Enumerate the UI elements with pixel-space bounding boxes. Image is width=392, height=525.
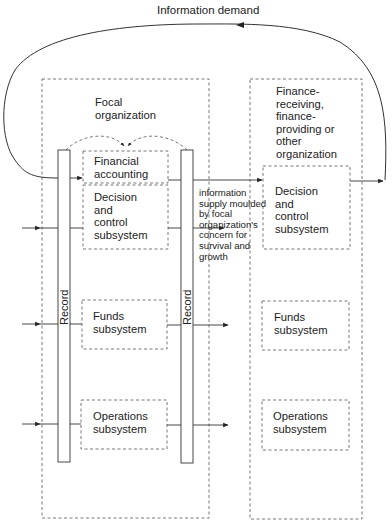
financial-accounting-label: Financial accounting: [94, 155, 148, 180]
other-organization-title: Finance- receiving, finance- providing o…: [276, 85, 337, 161]
other-operations-label: Operations subsystem: [273, 410, 328, 435]
information-supply-note: information supply moulded by focal orga…: [199, 188, 266, 262]
other-decision-control-label: Decision and control subsystem: [275, 185, 328, 235]
arrowhead-icon: [236, 22, 244, 28]
record-right-label: Record: [181, 290, 193, 325]
focal-decision-control-label: Decision and control subsystem: [94, 191, 147, 241]
record-feedback-arcs: [66, 136, 187, 150]
focal-organization-title: Focal organization: [95, 96, 156, 121]
diagram-canvas: [0, 0, 392, 525]
information-demand-label: Information demand: [157, 4, 259, 17]
other-funds-label: Funds subsystem: [274, 311, 327, 336]
record-left-label: Record: [58, 290, 70, 325]
focal-operations-label: Operations subsystem: [93, 410, 148, 435]
focal-funds-label: Funds subsystem: [93, 310, 146, 335]
